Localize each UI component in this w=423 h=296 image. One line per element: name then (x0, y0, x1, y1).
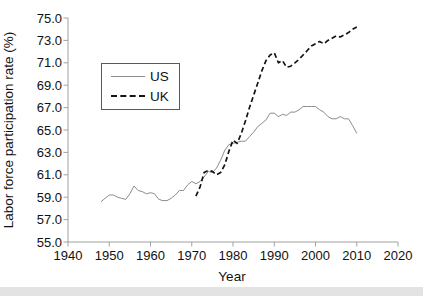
y-tick-label: 71.0 (37, 55, 62, 70)
y-tick-label: 73.0 (37, 33, 62, 48)
x-axis-title: Year (218, 269, 246, 284)
series-lines (101, 27, 357, 202)
series-line-uk (196, 27, 357, 196)
x-tick-label: 1990 (260, 248, 289, 263)
legend-label-us: US (150, 70, 169, 84)
y-axis-title: Labor force participation rate (%) (1, 32, 16, 229)
y-tick-label: 59.0 (37, 190, 62, 205)
line-chart: 55.057.059.061.063.065.067.069.071.073.0… (0, 0, 423, 296)
x-tick-label: 2010 (342, 248, 371, 263)
y-tick-label: 67.0 (37, 100, 62, 115)
y-tick-label: 61.0 (37, 167, 62, 182)
legend: US UK (101, 63, 180, 110)
uk-line-sample (111, 95, 145, 97)
axes (64, 18, 399, 247)
x-tick-label: 2000 (301, 248, 330, 263)
legend-label-uk: UK (150, 90, 169, 104)
legend-item-us: US (111, 70, 179, 84)
x-tick-label: 2020 (384, 248, 413, 263)
y-tick-label: 57.0 (37, 212, 62, 227)
x-tick-label: 1980 (219, 248, 248, 263)
x-tick-label: 1940 (54, 248, 83, 263)
y-tick-label: 65.0 (37, 123, 62, 138)
y-tick-label: 63.0 (37, 145, 62, 160)
x-tick-label: 1950 (95, 248, 124, 263)
window-edge-strip (0, 287, 423, 296)
legend-item-uk: UK (111, 90, 179, 104)
tick-labels: 55.057.059.061.063.065.067.069.071.073.0… (37, 11, 413, 264)
chart-figure: 55.057.059.061.063.065.067.069.071.073.0… (0, 0, 423, 296)
x-tick-label: 1970 (177, 248, 206, 263)
y-tick-label: 75.0 (37, 11, 62, 26)
x-tick-label: 1960 (136, 248, 165, 263)
us-line-sample (111, 76, 145, 77)
y-tick-label: 69.0 (37, 78, 62, 93)
